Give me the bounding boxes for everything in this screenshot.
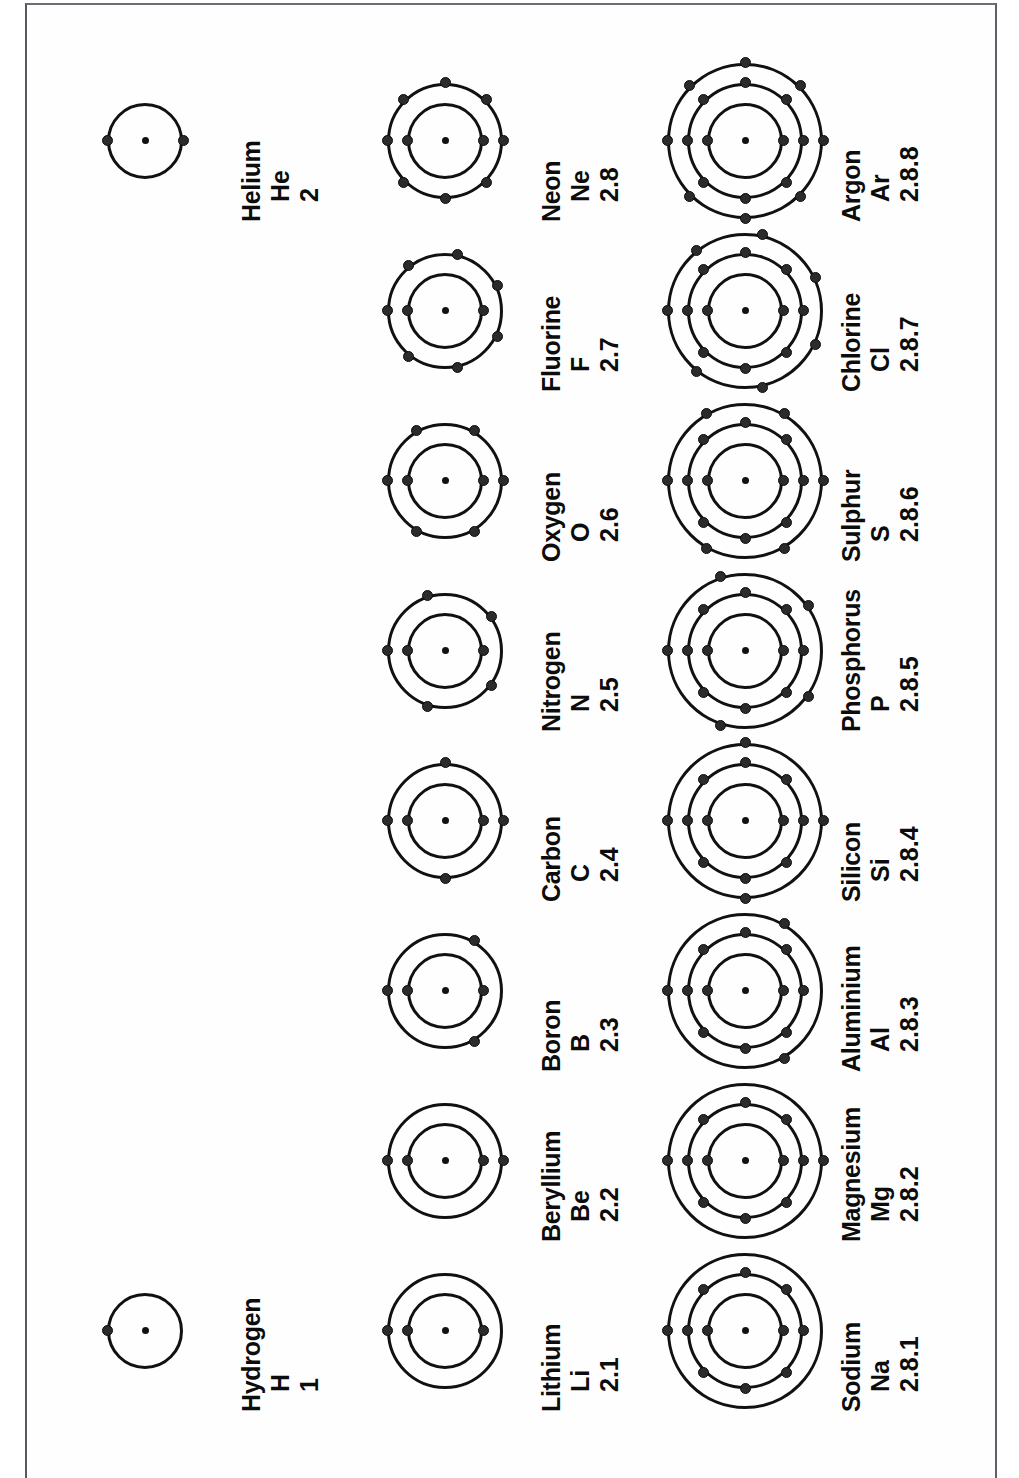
atom-diagram — [659, 1080, 831, 1242]
electron-configuration: 2.2 — [595, 1080, 624, 1242]
element-symbol: Cl — [866, 230, 895, 392]
element-label-block: NeonNe2.8 — [537, 60, 624, 222]
element-name: Sulphur — [837, 400, 866, 562]
electron-dot — [702, 815, 713, 826]
electron-dot — [498, 815, 509, 826]
nucleus-dot — [742, 477, 749, 484]
electron-dot — [682, 305, 693, 316]
electron-dot — [702, 1155, 713, 1166]
element-cell-c: CarbonC2.4 — [359, 740, 659, 902]
atom-diagram — [659, 60, 831, 222]
electron-configuration: 2.7 — [595, 230, 624, 392]
electron-dot — [662, 645, 673, 656]
electron-dot — [498, 475, 509, 486]
element-name: Silicon — [837, 740, 866, 902]
electron-dot — [702, 1325, 713, 1336]
element-cell-cl: ChlorineCl2.8.7 — [659, 230, 959, 392]
element-symbol: Ne — [566, 60, 595, 222]
electron-configuration: 2.8 — [595, 60, 624, 222]
electron-dot — [740, 213, 751, 224]
electron-dot — [778, 305, 789, 316]
element-symbol: Li — [566, 1250, 595, 1412]
electron-dot — [701, 543, 712, 554]
electron-dot — [478, 815, 489, 826]
nucleus-dot — [442, 137, 449, 144]
atom-diagram — [359, 1080, 531, 1242]
electron-dot — [778, 1325, 789, 1336]
electron-dot — [818, 475, 829, 486]
element-name: Sodium — [837, 1250, 866, 1412]
electron-dot — [702, 645, 713, 656]
electron-dot — [818, 135, 829, 146]
electron-dot — [382, 135, 393, 146]
electron-dot — [781, 944, 792, 955]
element-name: Phosphorus — [837, 570, 866, 732]
element-name: Lithium — [537, 1250, 566, 1412]
electron-dot — [662, 305, 673, 316]
atom-diagram — [359, 910, 531, 1072]
electron-dot — [803, 691, 814, 702]
atom-diagram — [359, 60, 531, 222]
electron-dot — [781, 856, 792, 867]
element-symbol: C — [566, 740, 595, 902]
electron-dot — [382, 305, 393, 316]
atom-diagram — [359, 740, 531, 902]
electron-dot — [781, 264, 792, 275]
electron-configuration: 2.8.7 — [895, 230, 924, 392]
element-symbol: H — [266, 1250, 295, 1412]
electron-configuration: 2.1 — [595, 1250, 624, 1412]
electron-dot — [402, 475, 413, 486]
electron-configuration: 2.8.2 — [895, 1080, 924, 1242]
element-cell-n: NitrogenN2.5 — [359, 570, 659, 732]
electron-dot — [469, 425, 480, 436]
atom-diagram — [59, 1250, 231, 1412]
electron-dot — [440, 193, 451, 204]
electron-dot — [486, 611, 497, 622]
electron-dot — [478, 475, 489, 486]
electron-dot — [778, 475, 789, 486]
electron-dot — [452, 362, 463, 373]
electron-configuration: 2.3 — [595, 910, 624, 1072]
element-name: Oxygen — [537, 400, 566, 562]
electron-dot — [781, 1284, 792, 1295]
element-label-block: BerylliumBe2.2 — [537, 1080, 624, 1242]
electron-shell-diagram-figure: HydrogenH1HeliumHe2 LithiumLi2.1Berylliu… — [41, 52, 981, 1432]
electron-dot — [402, 1155, 413, 1166]
electron-dot — [682, 1155, 693, 1166]
electron-dot — [178, 135, 189, 146]
electron-dot — [662, 815, 673, 826]
electron-dot — [403, 350, 414, 361]
electron-dot — [382, 475, 393, 486]
element-label-block: SulphurS2.8.6 — [837, 400, 924, 562]
electron-dot — [779, 543, 790, 554]
electron-dot — [403, 260, 414, 271]
electron-dot — [382, 1325, 393, 1336]
nucleus-dot — [442, 647, 449, 654]
element-cell-o: OxygenO2.6 — [359, 400, 659, 562]
element-label-block: CarbonC2.4 — [537, 740, 624, 902]
electron-dot — [469, 935, 480, 946]
electron-dot — [402, 645, 413, 656]
element-name: Chlorine — [837, 230, 866, 392]
electron-dot — [440, 77, 451, 88]
electron-dot — [440, 757, 451, 768]
electron-dot — [478, 305, 489, 316]
electron-configuration: 2.8.3 — [895, 910, 924, 1072]
nucleus-dot — [742, 1157, 749, 1164]
element-symbol: Al — [866, 910, 895, 1072]
atom-diagram — [659, 1250, 831, 1412]
element-label-block: FluorineF2.7 — [537, 230, 624, 392]
electron-configuration: 2.8.4 — [895, 740, 924, 902]
electron-dot — [702, 305, 713, 316]
electron-dot — [478, 1155, 489, 1166]
electron-dot — [478, 1325, 489, 1336]
electron-dot — [740, 703, 751, 714]
element-name: Nitrogen — [537, 570, 566, 732]
electron-dot — [682, 475, 693, 486]
electron-dot — [803, 599, 814, 610]
electron-dot — [102, 1325, 113, 1336]
electron-dot — [740, 1213, 751, 1224]
electron-dot — [781, 434, 792, 445]
electron-dot — [798, 135, 809, 146]
nucleus-dot — [142, 1327, 149, 1334]
